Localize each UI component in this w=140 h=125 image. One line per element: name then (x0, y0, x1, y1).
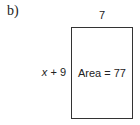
part-label: b) (7, 3, 19, 19)
rectangle-shape: Area = 77 (71, 27, 133, 119)
height-expression-rest: + 9 (47, 66, 66, 78)
height-label: x + 9 (36, 66, 66, 78)
area-label: Area = 77 (72, 67, 132, 79)
width-label: 7 (96, 9, 108, 21)
